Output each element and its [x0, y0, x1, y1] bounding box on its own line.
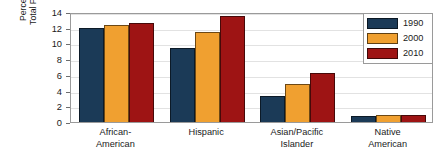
- legend-label: 2010: [403, 48, 423, 58]
- y-tick-label: 10: [40, 39, 62, 49]
- legend-label: 1990: [403, 18, 423, 28]
- x-axis-label-line: American: [342, 139, 433, 151]
- y-axis-title-line-1: Percent of the: [18, 0, 28, 21]
- y-tick-label: 6: [40, 71, 62, 81]
- bar-2000: [104, 25, 129, 122]
- bar-2010: [401, 115, 426, 122]
- bar-group: [79, 14, 154, 122]
- x-axis-label-line: Islander: [252, 139, 343, 151]
- bar-2010: [129, 23, 154, 122]
- y-tick-label: 14: [40, 8, 62, 18]
- legend-item-2000[interactable]: 2000: [367, 31, 430, 45]
- bar-2000: [285, 84, 310, 122]
- x-axis-label: Asian/PacificIslander: [252, 127, 343, 150]
- bar-2000: [195, 32, 220, 122]
- legend: 199020002010: [363, 14, 432, 64]
- x-axis-label: NativeAmerican: [342, 127, 433, 150]
- y-axis-title-line-2: Total Population: [28, 0, 38, 25]
- y-tick-label: 12: [40, 24, 62, 34]
- bar-group: [170, 14, 245, 122]
- x-axis-label: Hispanic: [161, 127, 252, 139]
- x-axis-label-line: American: [70, 139, 161, 151]
- bar-2000: [376, 115, 401, 122]
- bar-group: [260, 14, 335, 122]
- y-tick-label: 4: [40, 87, 62, 97]
- bar-1990: [170, 48, 195, 122]
- bar-1990: [79, 28, 104, 122]
- legend-item-1990[interactable]: 1990: [367, 16, 430, 30]
- x-axis-label-line: African-: [70, 127, 161, 139]
- y-tick-label: 8: [40, 55, 62, 65]
- x-axis-label-line: Native: [342, 127, 433, 139]
- legend-label: 2000: [403, 33, 423, 43]
- legend-item-2010[interactable]: 2010: [367, 46, 430, 60]
- x-axis-label: African-American: [70, 127, 161, 150]
- legend-swatch-icon: [367, 18, 398, 29]
- legend-swatch-icon: [367, 33, 398, 44]
- y-tick-label: 0: [40, 118, 62, 128]
- y-tick-mark: [66, 123, 70, 124]
- bar-2010: [220, 16, 245, 122]
- y-tick-label: 2: [40, 102, 62, 112]
- bar-chart: Percent of the Total Population 02468101…: [0, 0, 447, 160]
- bar-2010: [310, 73, 335, 122]
- x-axis-label-line: Asian/Pacific: [252, 127, 343, 139]
- bar-1990: [260, 96, 285, 122]
- x-axis-label-line: Hispanic: [161, 127, 252, 139]
- bar-1990: [351, 116, 376, 122]
- legend-swatch-icon: [367, 48, 398, 59]
